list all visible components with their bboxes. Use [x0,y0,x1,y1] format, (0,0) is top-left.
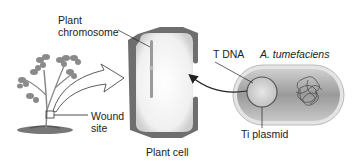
wound-site-label-line1: Wound [91,110,124,122]
diagram-canvas [0,0,363,161]
wound-site-label-line2: site [91,122,107,134]
ti-plasmid-circle [247,77,277,107]
t-dna-label: T DNA [213,48,244,60]
plant-chromosome-label-line2: chromosome [58,26,119,38]
bacterium [233,65,344,125]
bacterium-label: A. tumefaciens [260,48,329,60]
transfer-arrow-icon [53,64,124,112]
plant-illustration [17,54,88,134]
plant-cell-label: Plant cell [146,146,189,158]
plant-cell [128,27,198,138]
ti-plasmid-label: Ti plasmid [241,128,288,140]
plant-chromosome-label-line1: Plant [58,14,82,26]
